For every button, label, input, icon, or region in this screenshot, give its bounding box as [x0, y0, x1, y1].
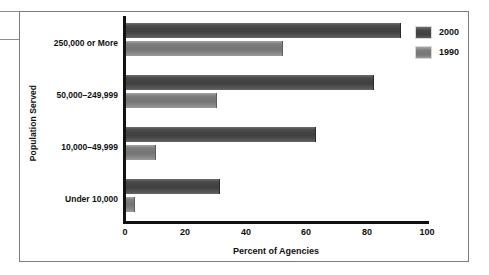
legend-label-2000: 2000	[439, 27, 459, 37]
plot-area: Population Served Percent of Agencies 0 …	[0, 0, 489, 275]
bar-2000-under-10000	[126, 179, 220, 194]
legend-label-1990: 1990	[439, 47, 459, 57]
bar-2000-250000-or-more	[126, 23, 401, 38]
legend-swatch-1990-icon	[415, 46, 432, 59]
y-axis-title: Population Served	[28, 63, 38, 183]
bar-1990-10000-49999	[126, 145, 156, 160]
category-label-50000-249999: 50,000–249,999	[14, 90, 118, 100]
x-tick-label-100: 100	[407, 227, 447, 237]
bar-2000-50000-249999	[126, 75, 374, 90]
legend-item-1990: 1990	[415, 42, 475, 62]
x-tick-label-60: 60	[286, 227, 326, 237]
bar-1990-50000-249999	[126, 93, 217, 108]
chart-screenshot: Population Served Percent of Agencies 0 …	[0, 0, 489, 275]
bar-2000-10000-49999	[126, 127, 316, 142]
category-label-under-10000: Under 10,000	[14, 194, 118, 204]
x-axis-title: Percent of Agencies	[123, 246, 429, 256]
bar-1990-250000-or-more	[126, 41, 283, 56]
legend-item-2000: 2000	[415, 22, 475, 42]
x-axis-line	[123, 221, 429, 224]
category-label-250000-or-more: 250,000 or More	[14, 38, 118, 48]
category-label-10000-49999: 10,000–49,999	[14, 142, 118, 152]
x-tick-label-40: 40	[226, 227, 266, 237]
legend: 2000 1990	[415, 22, 475, 62]
x-tick-label-80: 80	[347, 227, 387, 237]
x-tick-label-0: 0	[105, 227, 145, 237]
bar-1990-under-10000	[126, 197, 135, 212]
legend-swatch-2000-icon	[415, 26, 432, 39]
x-tick-label-20: 20	[165, 227, 205, 237]
